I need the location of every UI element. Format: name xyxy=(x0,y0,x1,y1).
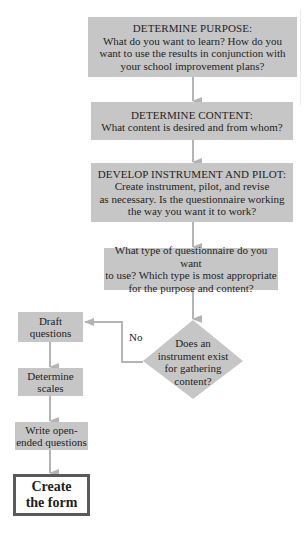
step-create-form: Create the form xyxy=(13,474,90,516)
step-determine-purpose: DETERMINE PURPOSE: What do you want to l… xyxy=(88,17,297,77)
step-develop-instrument: DEVELOP INSTRUMENT AND PILOT: Create ins… xyxy=(91,163,293,222)
final-text-line: the form xyxy=(16,495,87,511)
step-text-line: as necessary. Is the questionnaire worki… xyxy=(91,193,293,206)
decision-line: instrument exist xyxy=(143,350,243,363)
step-draft-questions: Draft questions xyxy=(18,312,83,342)
step-text-line: questions xyxy=(18,327,83,340)
step-heading: DETERMINE PURPOSE: xyxy=(88,22,297,35)
step-text-line: scales xyxy=(18,382,83,395)
step-text-line: What content is desired and from whom? xyxy=(91,121,293,134)
decision-text: Does an instrument exist for gathering c… xyxy=(143,337,243,387)
step-questionnaire-type: What type of questionnaire do you want t… xyxy=(104,248,278,290)
step-text-line: ended questions xyxy=(15,436,88,449)
step-text-line: Write open- xyxy=(15,424,88,437)
final-text-line: Create xyxy=(16,479,87,495)
arrowhead-left-icon xyxy=(84,318,94,326)
no-branch-label: No xyxy=(129,331,142,343)
step-text-line: the way you want it to work? xyxy=(91,205,293,218)
step-text-line: Determine xyxy=(18,370,83,383)
step-determine-content: DETERMINE CONTENT: What content is desir… xyxy=(91,102,293,140)
decision-line: for gathering xyxy=(143,362,243,375)
step-text-line: Draft xyxy=(18,315,83,328)
step-text-line: for the purpose and content? xyxy=(104,282,278,295)
step-heading: DEVELOP INSTRUMENT AND PILOT: xyxy=(91,168,293,181)
step-text-line: What type of questionnaire do you want xyxy=(104,244,278,269)
step-determine-scales: Determine scales xyxy=(18,368,83,396)
step-text-line: want to use the results in conjunction w… xyxy=(88,47,297,60)
step-text-line: What do you want to learn? How do you xyxy=(88,35,297,48)
step-text-line: your school improvement plans? xyxy=(88,60,297,73)
step-write-open-ended: Write open- ended questions xyxy=(15,422,88,450)
step-text-line: to use? Which type is most appropriate xyxy=(104,269,278,282)
step-heading: DETERMINE CONTENT: xyxy=(91,109,293,122)
decision-line: content? xyxy=(143,375,243,388)
decision-line: Does an xyxy=(143,337,243,350)
step-text-line: Create instrument, pilot, and revise xyxy=(91,180,293,193)
